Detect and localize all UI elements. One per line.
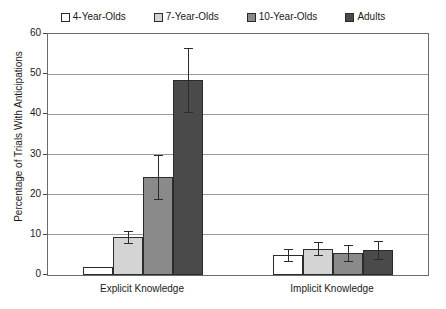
error-bar-cap-top (344, 245, 353, 246)
error-bar-line (348, 245, 349, 261)
y-tick-label: 0 (0, 269, 41, 279)
error-bar-line (378, 241, 379, 259)
error-bar-line (158, 155, 159, 199)
legend-entry[interactable]: 10-Year-Olds (247, 12, 318, 22)
error-bar-cap-bottom (314, 255, 323, 256)
error-bar-cap-bottom (344, 261, 353, 262)
gridline (48, 194, 428, 195)
legend-entry[interactable]: 4-Year-Olds (61, 12, 126, 22)
legend-label: 10-Year-Olds (259, 12, 318, 22)
legend-swatch-icon (247, 13, 256, 22)
error-bar-cap-top (154, 155, 163, 156)
gridline (48, 154, 428, 155)
error-bar-cap-top (184, 48, 193, 49)
x-category-label: Implicit Knowledge (237, 283, 427, 295)
error-bar-line (128, 231, 129, 243)
plot-area (47, 33, 429, 276)
error-bar-line (188, 48, 189, 112)
gridline (48, 74, 428, 75)
error-bar-cap-bottom (374, 259, 383, 260)
gridline (48, 114, 428, 115)
error-bar-cap-top (374, 241, 383, 242)
legend-entry[interactable]: 7-Year-Olds (154, 12, 219, 22)
error-bar-line (318, 242, 319, 255)
plot-inner (48, 34, 428, 275)
x-category-label: Explicit Knowledge (47, 283, 237, 295)
bar-chart-figure: 4-Year-Olds7-Year-Olds10-Year-OldsAdults… (0, 0, 446, 309)
legend-label: Adults (357, 12, 385, 22)
y-axis-title: Percentage of Trials With Anticipations (13, 27, 24, 247)
legend-entry[interactable]: Adults (345, 12, 385, 22)
gridline (48, 234, 428, 235)
legend-swatch-icon (61, 13, 70, 22)
legend-swatch-icon (154, 13, 163, 22)
bar (83, 267, 113, 275)
error-bar-cap-bottom (284, 261, 293, 262)
legend-label: 7-Year-Olds (166, 12, 219, 22)
error-bar-cap-bottom (124, 243, 133, 244)
error-bar-line (288, 249, 289, 261)
legend-label: 4-Year-Olds (73, 12, 126, 22)
error-bar-cap-bottom (154, 199, 163, 200)
error-bar-cap-top (314, 242, 323, 243)
error-bar-cap-top (124, 231, 133, 232)
chart-legend: 4-Year-Olds7-Year-Olds10-Year-OldsAdults (0, 8, 446, 26)
x-axis-category-labels: Explicit KnowledgeImplicit Knowledge (47, 283, 427, 299)
error-bar-cap-bottom (184, 112, 193, 113)
legend-swatch-icon (345, 13, 354, 22)
error-bar-cap-top (284, 249, 293, 250)
